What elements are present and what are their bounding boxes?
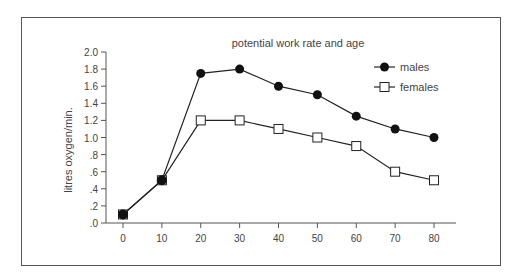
data-point	[313, 90, 322, 99]
y-tick-label: .8	[90, 150, 99, 161]
legend-label: males	[400, 61, 430, 73]
data-point	[274, 82, 283, 91]
y-tick-label: 1.0	[84, 133, 98, 144]
legend-marker-circle-icon	[380, 63, 389, 72]
y-tick-label: .4	[90, 184, 99, 195]
y-tick-label: .6	[90, 167, 99, 178]
x-tick-label: 0	[120, 233, 126, 244]
x-tick-label: 10	[156, 233, 168, 244]
y-axis-label: litres oxygen/min.	[62, 107, 74, 193]
y-tick-label: 1.4	[84, 98, 98, 109]
series-line	[123, 120, 434, 214]
data-point	[391, 167, 400, 176]
data-point	[352, 112, 361, 121]
x-tick-label: 50	[312, 233, 324, 244]
x-tick-label: 60	[351, 233, 363, 244]
data-point	[430, 176, 439, 185]
data-point	[196, 69, 205, 78]
x-tick-label: 70	[390, 233, 402, 244]
data-point	[235, 65, 244, 74]
data-point	[235, 116, 244, 125]
x-tick-label: 80	[428, 233, 440, 244]
data-point	[430, 133, 439, 142]
y-tick-label: 1.2	[84, 115, 98, 126]
data-point	[196, 116, 205, 125]
legend-marker-square-icon	[380, 83, 389, 92]
data-point	[118, 209, 128, 219]
x-tick-label: 20	[195, 233, 207, 244]
legend-label: females	[400, 81, 439, 93]
data-point	[274, 124, 283, 133]
data-point	[391, 124, 400, 133]
y-tick-label: 1.8	[84, 64, 98, 75]
x-tick-label: 40	[273, 233, 285, 244]
y-tick-label: 2.0	[84, 47, 98, 58]
y-tick-label: .2	[90, 201, 99, 212]
data-point	[352, 142, 361, 151]
axes: .0.2.4.6.81.01.21.41.61.82.0010203040506…	[84, 47, 456, 244]
y-tick-label: .0	[90, 218, 99, 229]
series-males	[119, 65, 439, 219]
x-tick-label: 30	[234, 233, 246, 244]
series-group	[118, 65, 439, 220]
line-chart: potential work rate and age litres oxyge…	[0, 0, 522, 279]
legend-item-males: males	[374, 61, 430, 73]
data-point	[157, 175, 167, 185]
legend-item-females: females	[374, 81, 439, 93]
data-point	[313, 133, 322, 142]
legend: malesfemales	[374, 61, 439, 93]
chart-title: potential work rate and age	[232, 37, 365, 49]
y-tick-label: 1.6	[84, 81, 98, 92]
